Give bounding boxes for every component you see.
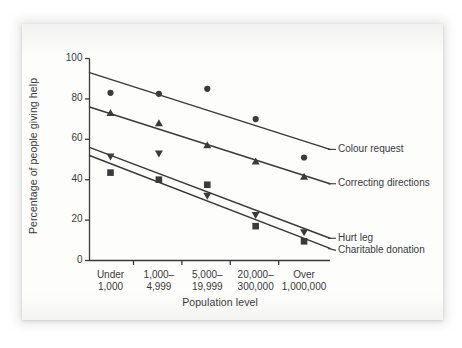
y-tick-label: 100	[57, 52, 83, 63]
series-label: Hurt leg	[338, 232, 373, 243]
series-points	[107, 109, 309, 180]
x-axis-title: Population level	[140, 296, 300, 308]
series-label: Correcting directions	[338, 177, 430, 188]
label-leader-lines	[328, 149, 336, 250]
x-category-line: 1,000,000	[272, 281, 336, 294]
y-tick-label: 60	[57, 132, 83, 143]
y-tick-label: 0	[57, 254, 83, 265]
series-label: Charitable donation	[338, 244, 425, 255]
series-points	[107, 150, 309, 236]
y-tick-label: 20	[57, 213, 83, 224]
figure-page: Percentage of people giving help Populat…	[0, 0, 462, 348]
series-points	[107, 86, 307, 161]
series-label: Colour request	[338, 143, 404, 154]
y-tick-label: 40	[57, 173, 83, 184]
x-category-label: Over1,000,000	[272, 269, 336, 294]
x-category-line: Over	[272, 269, 336, 282]
trend-lines	[90, 73, 331, 249]
y-axis-title: Percentage of people giving help	[27, 61, 39, 251]
y-tick-label: 80	[57, 92, 83, 103]
series-points	[107, 169, 307, 244]
